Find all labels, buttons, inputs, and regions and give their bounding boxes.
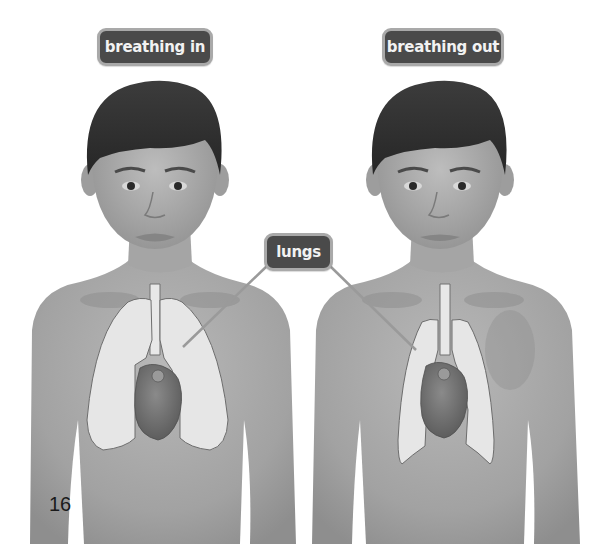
- boy-breathing-out: [312, 81, 580, 544]
- illustration-page: breathing in breathing out lungs 16: [0, 0, 598, 544]
- page-number: 16: [49, 493, 71, 516]
- lungs-label: lungs: [264, 233, 333, 271]
- windpipe: [440, 284, 450, 355]
- breathing-in-label: breathing in: [97, 28, 213, 66]
- boy-breathing-in: [30, 81, 296, 544]
- body-illustrations: [0, 0, 598, 544]
- breathing-out-label: breathing out: [382, 28, 504, 66]
